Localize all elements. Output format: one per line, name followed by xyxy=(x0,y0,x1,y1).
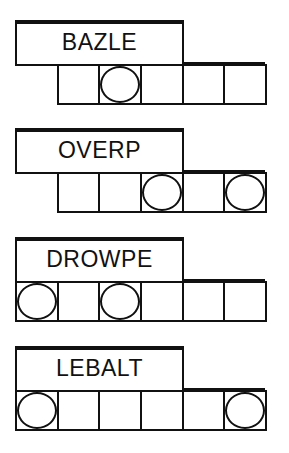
circle-icon xyxy=(17,283,57,320)
letter-cell-4[interactable] xyxy=(182,172,225,213)
scrambled-word-box: LEBALT xyxy=(15,346,184,392)
circle-icon xyxy=(142,174,182,211)
letter-cell-1[interactable] xyxy=(15,390,59,431)
scrambled-word: BAZLE xyxy=(17,29,182,56)
letter-cell-6[interactable] xyxy=(223,390,267,431)
letter-cell-3[interactable] xyxy=(98,390,142,431)
letter-cell-3[interactable] xyxy=(98,281,142,322)
circle-icon xyxy=(17,392,57,429)
circle-icon xyxy=(100,283,140,320)
scrambled-word-box: DROWPE xyxy=(15,237,184,283)
letter-cell-1[interactable] xyxy=(15,281,59,322)
letter-cell-2[interactable] xyxy=(98,172,142,213)
letter-cell-4[interactable] xyxy=(140,390,184,431)
letter-cell-3[interactable] xyxy=(140,172,184,213)
circle-icon xyxy=(225,392,265,429)
letter-cell-1[interactable] xyxy=(57,172,100,213)
letter-cell-2[interactable] xyxy=(57,390,100,431)
circle-icon xyxy=(100,66,140,103)
scrambled-word: LEBALT xyxy=(17,355,182,382)
letter-cell-6[interactable] xyxy=(223,281,267,322)
letter-cell-3[interactable] xyxy=(140,64,184,105)
letter-cell-2[interactable] xyxy=(98,64,142,105)
letter-cell-5[interactable] xyxy=(223,172,267,213)
letter-cell-1[interactable] xyxy=(57,64,100,105)
letter-cell-2[interactable] xyxy=(57,281,100,322)
circle-icon xyxy=(225,174,265,211)
scrambled-word-box: BAZLE xyxy=(15,20,184,66)
letter-cell-4[interactable] xyxy=(140,281,184,322)
letter-cell-5[interactable] xyxy=(223,64,267,105)
scrambled-word: OVERP xyxy=(17,137,182,164)
scrambled-word-box: OVERP xyxy=(15,128,184,174)
letter-cell-5[interactable] xyxy=(182,281,225,322)
letter-cell-4[interactable] xyxy=(182,64,225,105)
letter-cell-5[interactable] xyxy=(182,390,225,431)
scrambled-word: DROWPE xyxy=(17,246,182,273)
